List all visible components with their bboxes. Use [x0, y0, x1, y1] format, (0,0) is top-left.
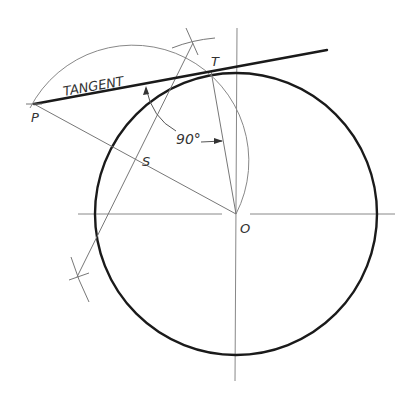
bisector-marks-bottom [69, 257, 89, 302]
point-p-label: P [31, 110, 39, 125]
point-o-label: O [240, 221, 250, 236]
vertical-center-line [235, 28, 237, 381]
center-lines [78, 28, 395, 381]
angle-arrow-right-icon [214, 138, 223, 144]
bisector-marks-top [172, 28, 215, 55]
tangent-label: TANGENT [62, 73, 126, 99]
angle-label: 90° [176, 131, 201, 147]
point-t-label: T [211, 54, 220, 69]
point-s-label: S [142, 154, 150, 169]
tangent-construction-diagram: TANGENT P T S O 90° [0, 0, 410, 401]
angle-arrow-up-icon [143, 86, 149, 95]
